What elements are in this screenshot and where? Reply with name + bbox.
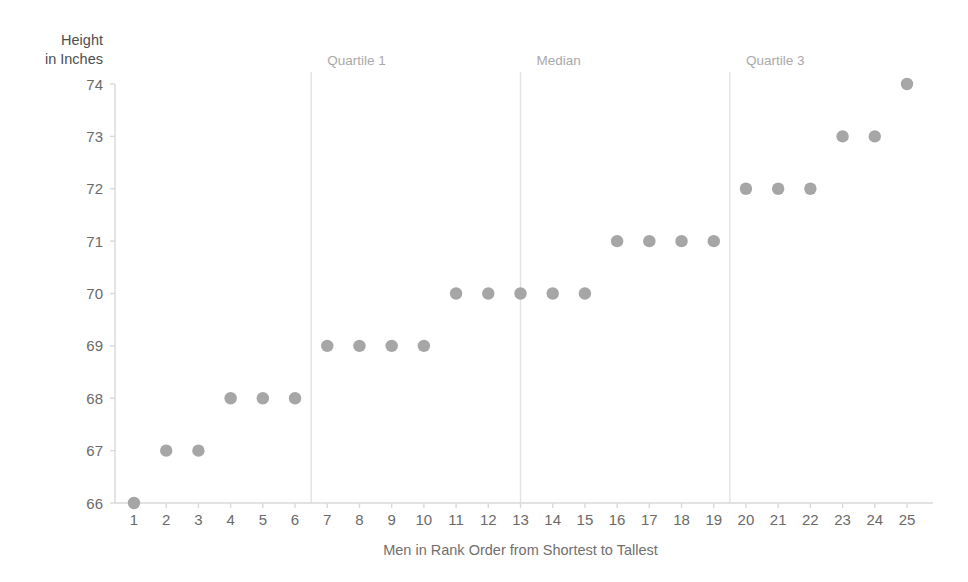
- data-point: [128, 497, 140, 509]
- x-tick-label: 12: [480, 511, 497, 528]
- x-tick-label: 5: [259, 511, 267, 528]
- x-tick-label: 24: [866, 511, 883, 528]
- y-tick-label: 67: [86, 442, 103, 459]
- x-tick-label: 9: [387, 511, 395, 528]
- x-tick-label: 1: [130, 511, 138, 528]
- data-point: [482, 287, 494, 299]
- x-tick-label: 18: [673, 511, 690, 528]
- y-axis-title-line: Height: [61, 32, 103, 48]
- x-tick-labels-group: 1234567891011121314151617181920212223242…: [130, 511, 916, 528]
- data-point: [224, 392, 236, 404]
- y-axis-title: Heightin Inches: [45, 32, 103, 67]
- y-tick-labels-group: 666768697071727374: [86, 76, 103, 512]
- data-point: [740, 183, 752, 195]
- x-tick-label: 3: [194, 511, 202, 528]
- data-point: [869, 130, 881, 142]
- y-tick-label: 70: [86, 285, 103, 302]
- y-tick-label: 71: [86, 233, 103, 250]
- axis-titles-group: Heightin InchesMen in Rank Order from Sh…: [45, 32, 658, 558]
- y-tick-label: 69: [86, 337, 103, 354]
- x-tick-label: 19: [705, 511, 722, 528]
- data-point: [160, 444, 172, 456]
- data-point: [514, 287, 526, 299]
- data-point: [385, 340, 397, 352]
- y-axis-title-line: in Inches: [45, 51, 103, 67]
- annotation-label-quartile-3: Quartile 3: [746, 53, 805, 68]
- data-point: [708, 235, 720, 247]
- annotation-label-median: Median: [537, 53, 581, 68]
- x-tick-label: 6: [291, 511, 299, 528]
- data-point: [353, 340, 365, 352]
- x-tick-label: 8: [355, 511, 363, 528]
- data-point: [192, 444, 204, 456]
- x-tick-label: 21: [770, 511, 787, 528]
- y-tick-label: 66: [86, 495, 103, 512]
- x-tick-label: 22: [802, 511, 819, 528]
- x-tick-label: 23: [834, 511, 851, 528]
- chart-container: 666768697071727374 123456789101112131415…: [0, 0, 968, 582]
- x-axis-title: Men in Rank Order from Shortest to Talle…: [383, 542, 658, 558]
- y-tick-label: 72: [86, 180, 103, 197]
- x-tick-label: 10: [416, 511, 433, 528]
- x-tick-label: 13: [512, 511, 529, 528]
- x-tick-label: 16: [609, 511, 626, 528]
- x-tick-label: 15: [577, 511, 594, 528]
- x-tick-label: 4: [226, 511, 234, 528]
- data-point: [675, 235, 687, 247]
- x-tick-label: 17: [641, 511, 658, 528]
- data-point: [836, 130, 848, 142]
- data-point: [289, 392, 301, 404]
- y-tick-label: 74: [86, 76, 103, 93]
- x-tick-label: 11: [448, 511, 464, 528]
- x-tick-label: 14: [544, 511, 561, 528]
- data-point: [611, 235, 623, 247]
- x-tick-label: 7: [323, 511, 331, 528]
- data-point: [772, 183, 784, 195]
- data-point: [418, 340, 430, 352]
- data-point: [643, 235, 655, 247]
- scatter-plot-svg: 666768697071727374 123456789101112131415…: [0, 0, 968, 582]
- data-point: [901, 78, 913, 90]
- data-point: [321, 340, 333, 352]
- annotation-labels-group: Quartile 1MedianQuartile 3: [327, 53, 804, 68]
- x-tick-label: 20: [738, 511, 755, 528]
- y-tick-label: 68: [86, 390, 103, 407]
- data-point: [257, 392, 269, 404]
- x-tick-label: 2: [162, 511, 170, 528]
- y-tick-label: 73: [86, 128, 103, 145]
- data-point: [804, 183, 816, 195]
- annotation-label-quartile-1: Quartile 1: [327, 53, 386, 68]
- data-point: [450, 287, 462, 299]
- x-tick-label: 25: [899, 511, 916, 528]
- data-point: [579, 287, 591, 299]
- data-point: [547, 287, 559, 299]
